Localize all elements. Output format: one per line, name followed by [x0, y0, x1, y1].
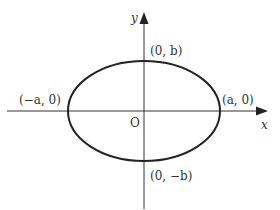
point-bottom-label: (0, −b): [150, 169, 192, 183]
y-axis-label: y: [130, 11, 138, 25]
origin-label: O: [130, 116, 140, 130]
y-axis-arrow-icon: [140, 12, 149, 24]
point-right-label: (a, 0): [222, 93, 254, 107]
point-left-label: (−a, 0): [19, 93, 61, 107]
x-axis-arrow-icon: [256, 107, 268, 116]
ellipse-diagram: y x O (0, b) (0, −b) (−a, 0) (a, 0): [0, 0, 280, 210]
x-axis-label: x: [261, 118, 268, 132]
point-top-label: (0, b): [150, 44, 182, 58]
